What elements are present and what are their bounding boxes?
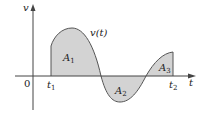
v-axis-label: v [23,2,29,13]
curve-label: v(t) [90,27,108,38]
t2-label: t2 [169,79,178,92]
t1-label: t1 [47,79,56,92]
v-axis-arrow-icon [31,4,36,11]
t-axis-label: t [189,77,194,88]
diagram-svg: v t 0 t1 t2 v(t) A1 A2 A3 [0,0,206,113]
area-a2-region [101,76,146,102]
origin-label: 0 [24,78,30,89]
velocity-area-diagram: v t 0 t1 t2 v(t) A1 A2 A3 [0,0,206,113]
